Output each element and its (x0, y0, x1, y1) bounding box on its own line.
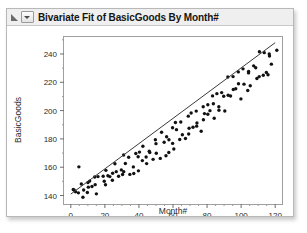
data-point (81, 196, 84, 199)
data-point (175, 128, 178, 131)
data-point (171, 126, 174, 129)
data-point (220, 91, 223, 94)
data-point (159, 157, 162, 160)
scatter-plot-svg: 140160180200220240 020406080100120 Basic… (7, 26, 293, 216)
data-point (90, 185, 93, 188)
data-point (77, 191, 80, 194)
data-point (237, 82, 240, 85)
y-axis-ticks: 140160180200220240 (44, 40, 64, 201)
data-point (124, 162, 127, 165)
y-tick-label: 180 (44, 135, 58, 144)
data-point (122, 170, 125, 173)
data-point (187, 127, 190, 130)
data-point (246, 89, 249, 92)
data-point (87, 185, 90, 188)
data-point (213, 117, 216, 120)
data-point (270, 62, 273, 65)
data-point (268, 54, 271, 57)
data-point (195, 121, 198, 124)
data-point (223, 109, 226, 112)
data-point (167, 151, 170, 154)
data-point (187, 132, 190, 135)
data-point (172, 147, 175, 150)
disclosure-triangle-icon[interactable] (10, 13, 19, 22)
data-point (206, 113, 209, 116)
data-point (234, 87, 237, 90)
data-point (217, 105, 220, 108)
data-point (141, 144, 144, 147)
data-point (77, 165, 80, 168)
data-point (189, 111, 192, 114)
data-point (138, 150, 141, 153)
x-tick-label: 120 (269, 211, 283, 216)
data-point (145, 162, 148, 165)
y-tick-label: 240 (44, 50, 58, 59)
data-point (117, 175, 120, 178)
data-point (162, 141, 165, 144)
data-point (155, 152, 158, 155)
data-point (167, 138, 170, 141)
data-point (165, 135, 168, 138)
data-point (262, 74, 265, 77)
data-point (187, 114, 190, 117)
data-point (93, 183, 96, 186)
x-axis-title: Month# (159, 206, 188, 216)
data-point (128, 173, 131, 176)
data-point (160, 131, 163, 134)
data-point (108, 175, 111, 178)
data-point (154, 142, 157, 145)
data-point (206, 103, 209, 106)
data-point (178, 138, 181, 141)
data-point (212, 102, 215, 105)
data-point (184, 137, 187, 140)
data-point (111, 179, 114, 182)
y-tick-label: 160 (44, 163, 58, 172)
data-point (151, 158, 154, 161)
x-tick-label: 0 (69, 211, 74, 216)
y-axis-title: BasicGoods (13, 97, 23, 143)
data-point (181, 133, 184, 136)
data-point (195, 109, 198, 112)
data-point (215, 92, 218, 95)
data-point (171, 142, 174, 145)
data-point (132, 165, 135, 168)
data-point (195, 124, 198, 127)
page-title: Bivariate Fit of BasicGoods By Month# (38, 12, 219, 23)
data-point (254, 66, 257, 69)
data-point (111, 172, 114, 175)
data-point (247, 71, 250, 74)
data-point (104, 183, 107, 186)
x-tick-label: 20 (100, 211, 109, 216)
data-point (249, 84, 252, 87)
y-tick-label: 200 (44, 107, 58, 116)
report-title-bar[interactable]: Bivariate Fit of BasicGoods By Month# (7, 9, 293, 26)
data-point (132, 172, 135, 175)
data-point (202, 105, 205, 108)
x-tick-label: 100 (234, 211, 248, 216)
popup-menu-icon[interactable] (21, 11, 34, 23)
data-point (136, 155, 139, 158)
data-point (242, 82, 245, 85)
data-point (266, 73, 269, 76)
data-point (217, 109, 220, 112)
x-tick-label: 40 (134, 211, 143, 216)
data-point (154, 138, 157, 141)
y-tick-label: 220 (44, 78, 58, 87)
data-point (137, 169, 140, 172)
data-point (86, 191, 89, 194)
y-tick-label: 140 (44, 192, 58, 201)
data-point (179, 120, 182, 123)
data-point (127, 156, 130, 159)
data-point (95, 192, 98, 195)
data-point (239, 97, 242, 100)
data-point (174, 121, 177, 124)
data-point (141, 159, 144, 162)
data-point (208, 109, 211, 112)
bivariate-chart: 140160180200220240 020406080100120 Basic… (7, 26, 293, 216)
data-point (203, 112, 206, 115)
data-point (231, 75, 234, 78)
data-point (202, 118, 205, 121)
data-point (82, 188, 85, 191)
data-point (144, 155, 147, 158)
data-point (115, 170, 118, 173)
